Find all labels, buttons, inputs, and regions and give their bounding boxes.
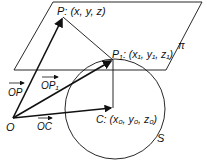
label-op1-group: OP₁ — [41, 77, 59, 91]
label-op-group: OP — [8, 83, 24, 98]
segment-p-p1 — [63, 17, 113, 60]
label-s: S — [157, 132, 165, 144]
label-op1: OP₁ — [41, 80, 59, 91]
label-oc: OC — [37, 121, 53, 132]
label-op: OP — [8, 87, 23, 98]
label-oc-group: OC — [37, 118, 53, 132]
label-o: O — [6, 121, 15, 133]
label-c: C: (x₀, y₀, z₀) — [96, 113, 157, 125]
sphere-s — [65, 59, 165, 159]
label-p: P: (x, y, z) — [57, 5, 106, 17]
label-pi: π — [178, 40, 185, 51]
label-p1: P1: (x₁, y₁, z₁) — [112, 48, 173, 61]
sphere-plane-diagram: P: (x, y, z) P1: (x₁, y₁, z₁) C: (x₀, y₀… — [0, 0, 207, 164]
